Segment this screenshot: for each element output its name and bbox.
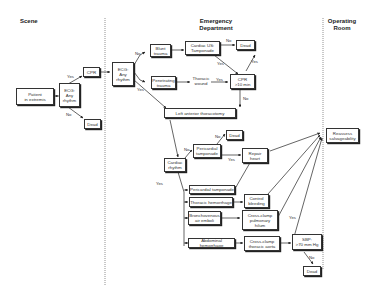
edge-label-ecg-scene-yes: Yes [67, 74, 74, 79]
node-cpr-10-min: CPR >10 min [230, 74, 255, 89]
edge-label-cpr10-yes: Yes [251, 59, 258, 64]
node-cpr-scene: CPR [83, 67, 100, 77]
edge-label-ecg-ed-no: No [135, 51, 140, 56]
node-cardiac-us-tamponade: Cardiac US: Tamponade [185, 41, 220, 55]
node-control-bleeding: Control bleeding [244, 194, 269, 208]
node-reassess-salvageability: Reassess salvageability [326, 128, 359, 143]
node-dead-scene: Dead [84, 119, 101, 129]
node-dead-mid: Dead [226, 130, 243, 140]
node-repair-heart: Repair heart [242, 148, 268, 163]
node-patient-in-extremis: Patient in extremis [16, 88, 54, 105]
node-blunt-trauma: Blunt trauma [150, 44, 171, 57]
edge-label-tamp-no: No [215, 134, 220, 139]
edge-label-cpr10-no: No [243, 96, 248, 101]
node-cross-clamp-thoracic-aorta: Cross-clamp thoracic aorta [244, 236, 280, 251]
node-penetrating-trauma: Penetrating trauma [151, 76, 176, 89]
edge-label-tamp-yes: Yes [228, 157, 235, 162]
node-cross-clamp-pulmonary-hilum: Cross-clamp pulmonary hilum [242, 210, 278, 230]
edge-label-rhythm-no: No [184, 147, 189, 152]
node-ecg-ed: ECG: Any rhythm [112, 62, 134, 86]
label-thoracic-wound: Thoracic wound [191, 76, 211, 86]
node-bronchovenous-air-emboli: Bronchovenous air emboli [188, 211, 221, 225]
node-ecg-scene: ECG: Any rhythm [59, 83, 80, 107]
edge-label-sbp-yes: Yes [289, 215, 296, 220]
node-pericardial-tamponade-1: Pericardial tamponade [193, 144, 221, 158]
edge-label-wound-yes: Yes [216, 77, 223, 82]
node-sbp-70: SBP: >70 mm Hg [292, 234, 322, 250]
edge-label-rhythm-yes: Yes [156, 181, 163, 186]
node-abdominal-hemorrhage: Abdominal hemorrhage [188, 238, 235, 248]
edge-label-us-yes: Yes [217, 61, 224, 66]
node-left-anterior-thoracotomy: Left anterior thoracotomy [164, 108, 236, 118]
node-dead-bottom: Dead [303, 266, 321, 276]
edge-label-sbp-no: No [309, 255, 314, 260]
edge-label-ecg-scene-no: No [66, 112, 71, 117]
edge-label-ecg-ed-yes: Yes [137, 87, 144, 92]
node-dead-top: Dead [236, 40, 255, 50]
node-pericardial-tamponade-2: Pericardial tamponade [189, 185, 235, 194]
node-thoracic-hemorrhage: Thoracic hemorrhage [189, 197, 233, 207]
edge-label-us-no: No [226, 38, 231, 43]
node-cardiac-rhythm: Cardiac rhythm [164, 158, 186, 172]
